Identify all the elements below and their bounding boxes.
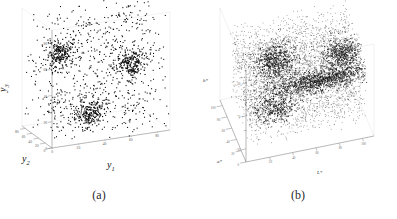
plot-a-axes [20, 8, 170, 149]
tick-label-y3: 80 [43, 42, 47, 46]
tick-label-L: 80 [339, 146, 343, 150]
tick-label-b: 50 [237, 82, 241, 86]
tick-label-y2: 60 [22, 135, 26, 139]
tick-label-y1: 0 [51, 150, 53, 154]
tick-label-a: 0 [238, 163, 240, 167]
plot-b-canvas: 20406080100020406080100-50050 L* a* b* [199, 0, 397, 219]
tick-label-y2: 20 [35, 144, 39, 148]
tick-label-a: 100 [211, 106, 216, 110]
tick-label-a: 40 [227, 140, 231, 144]
tick-label-a: 60 [222, 129, 226, 133]
panel-a: 020406080020406080020406080 y1 y2 y3 (a) [0, 0, 198, 219]
tick-label-b: 0 [239, 115, 241, 119]
figure-root: 020406080020406080020406080 y1 y2 y3 (a) [0, 0, 397, 219]
tick-label-y1: 60 [129, 138, 133, 142]
tick-label-b: -50 [236, 148, 241, 152]
tick-label-L: 20 [269, 160, 273, 164]
tick-label-a: 80 [217, 118, 221, 122]
tick-label-y2: 40 [28, 140, 32, 144]
tick-label-y3: 60 [43, 68, 47, 72]
plot-a-svg: 020406080020406080020406080 [0, 0, 198, 190]
tick-label-y3: 40 [43, 95, 47, 99]
tick-label-y3: 20 [43, 121, 47, 125]
caption-a: (a) [0, 188, 198, 203]
tick-label-L: 40 [292, 156, 296, 160]
plot-b-points [230, 1, 367, 145]
tick-label-a: 20 [231, 152, 235, 156]
caption-b: (b) [199, 188, 397, 203]
tick-label-y1: 80 [155, 134, 159, 138]
panel-b: 20406080100020406080100-50050 L* a* b* (… [199, 0, 397, 219]
plot-b-svg: 20406080100020406080100-50050 [199, 0, 397, 190]
tick-label-L: 100 [361, 142, 366, 146]
tick-label-L: 60 [315, 151, 319, 155]
tick-label-y1: 20 [77, 146, 81, 150]
tick-label-y2: 80 [15, 130, 19, 134]
tick-label-y3: 0 [45, 147, 47, 151]
plot-b-tick-labels: 20406080100020406080100-50050 [211, 82, 367, 166]
tick-label-y1: 40 [103, 142, 107, 146]
plot-a-canvas: 020406080020406080020406080 y1 y2 y3 [0, 0, 198, 219]
